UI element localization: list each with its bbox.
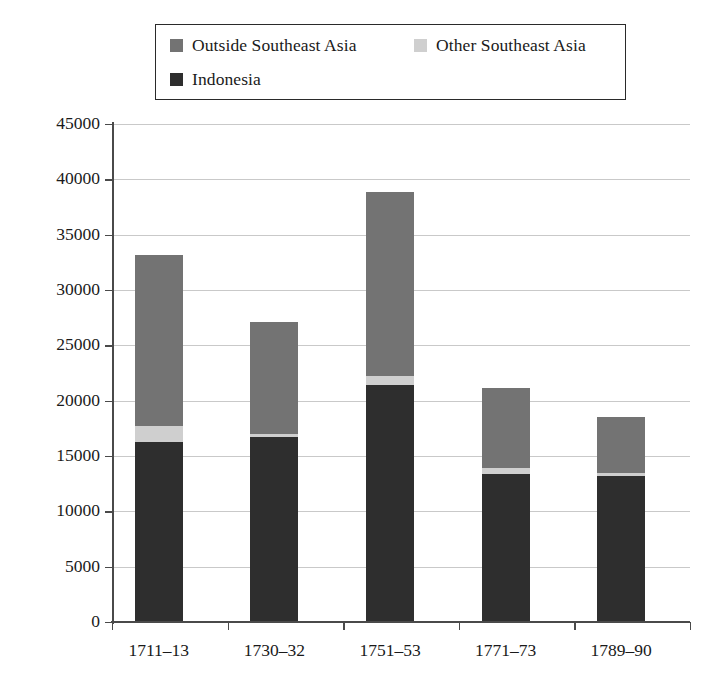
bar-segment[interactable] — [366, 192, 414, 376]
y-axis-tick-label: 10000 — [16, 502, 100, 520]
y-axis-tick — [105, 511, 112, 512]
y-axis-tick — [105, 124, 112, 125]
bar-segment[interactable] — [482, 474, 530, 622]
bar-stack[interactable] — [482, 124, 530, 622]
y-axis-tick — [105, 456, 112, 457]
x-axis-tick-label: 1751–53 — [359, 640, 420, 660]
bar-segment[interactable] — [250, 434, 298, 437]
x-axis-tick — [459, 622, 460, 630]
bar-stack[interactable] — [250, 124, 298, 622]
y-axis-tick-label: 0 — [16, 613, 100, 631]
bar-segment[interactable] — [597, 417, 645, 472]
x-axis-tick-label: 1711–13 — [128, 640, 189, 660]
y-axis-tick-label: 45000 — [16, 115, 100, 133]
y-axis-tick — [105, 290, 112, 291]
x-axis-tick — [228, 622, 229, 630]
chart-legend: Outside Southeast Asia Other Southeast A… — [155, 24, 626, 100]
plot-area — [112, 124, 690, 622]
bar-stack[interactable] — [135, 124, 183, 622]
legend-swatch-indonesia — [170, 73, 183, 86]
bar-segment[interactable] — [135, 255, 183, 426]
y-axis-tick — [105, 345, 112, 346]
bar-segment[interactable] — [250, 437, 298, 622]
legend-swatch-outside-southeast-asia — [170, 39, 183, 52]
bar-segment[interactable] — [366, 385, 414, 622]
y-axis-tick-label: 5000 — [16, 558, 100, 576]
y-axis-tick-label: 30000 — [16, 281, 100, 299]
x-axis-line — [111, 621, 690, 623]
y-axis-tick — [105, 401, 112, 402]
x-axis-tick — [574, 622, 575, 630]
legend-label-indonesia: Indonesia — [192, 70, 261, 89]
x-axis-tick — [343, 622, 344, 630]
y-axis-line — [112, 122, 114, 624]
bar-segment[interactable] — [135, 426, 183, 441]
x-axis-tick-label: 1730–32 — [244, 640, 305, 660]
legend-item-outside-southeast-asia: Outside Southeast Asia — [170, 36, 357, 55]
bar-stack[interactable] — [366, 124, 414, 622]
legend-label-other-southeast-asia: Other Southeast Asia — [436, 36, 586, 55]
legend-item-indonesia: Indonesia — [170, 70, 261, 89]
y-axis-tick-label: 25000 — [16, 336, 100, 354]
bar-segment[interactable] — [482, 468, 530, 474]
y-axis-tick-label: 15000 — [16, 447, 100, 465]
bar-segment[interactable] — [482, 388, 530, 468]
x-axis-tick-label: 1789–90 — [591, 640, 652, 660]
y-axis-tick-label: 40000 — [16, 170, 100, 188]
y-axis-tick — [105, 567, 112, 568]
legend-item-other-southeast-asia: Other Southeast Asia — [414, 36, 586, 55]
bar-segment[interactable] — [135, 442, 183, 622]
bar-segment[interactable] — [250, 322, 298, 434]
legend-swatch-other-southeast-asia — [414, 39, 427, 52]
legend-label-outside-southeast-asia: Outside Southeast Asia — [192, 36, 357, 55]
y-axis-tick-label: 35000 — [16, 226, 100, 244]
bar-segment[interactable] — [597, 476, 645, 622]
x-axis-tick-label: 1771–73 — [475, 640, 536, 660]
y-axis-tick — [105, 179, 112, 180]
x-axis-tick — [112, 622, 113, 630]
y-axis-tick-label: 20000 — [16, 392, 100, 410]
bar-stack[interactable] — [597, 124, 645, 622]
bar-segment[interactable] — [366, 376, 414, 385]
x-axis-tick — [690, 622, 691, 630]
stacked-bar-chart: Outside Southeast Asia Other Southeast A… — [0, 0, 706, 687]
y-axis-tick — [105, 235, 112, 236]
bar-segment[interactable] — [597, 473, 645, 476]
